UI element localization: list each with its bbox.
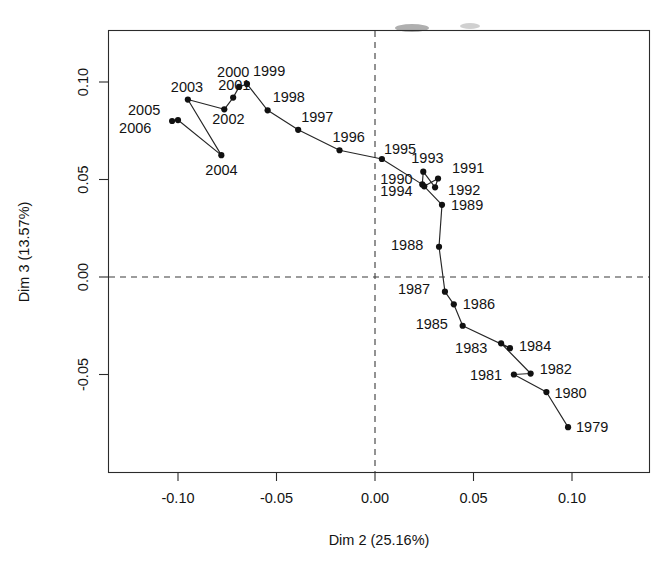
data-label-2006: 2006 [119, 120, 151, 136]
data-point-1989 [439, 202, 445, 208]
data-label-1980: 1980 [554, 385, 586, 401]
data-label-1991: 1991 [452, 160, 484, 176]
data-label-1982: 1982 [540, 361, 572, 377]
x-tick-label-0.05: 0.05 [459, 490, 487, 506]
data-point-2004 [218, 152, 224, 158]
data-label-1986: 1986 [463, 296, 495, 312]
data-label-1995: 1995 [384, 141, 416, 157]
data-label-1984: 1984 [519, 338, 551, 354]
data-point-1992 [432, 184, 438, 190]
data-point-1979 [565, 424, 571, 430]
data-point-1986 [451, 301, 457, 307]
x-tick-label--0.10: -0.10 [161, 490, 194, 506]
data-point-1994 [419, 181, 425, 187]
y-tick-label-0.00: 0.00 [75, 263, 91, 291]
data-label-1988: 1988 [391, 237, 423, 253]
x-tick-label-0.10: 0.10 [558, 490, 586, 506]
data-point-2003 [185, 96, 191, 102]
data-point-1988 [436, 244, 442, 250]
data-point-1980 [543, 389, 549, 395]
data-label-1994: 1994 [380, 183, 412, 199]
data-point-1981 [511, 371, 517, 377]
y-axis-title: Dim 3 (13.57%) [16, 202, 32, 303]
data-point-2001 [230, 95, 236, 101]
data-point-1983 [498, 340, 504, 346]
data-point-1997 [295, 127, 301, 133]
data-point-1996 [336, 147, 342, 153]
y-tick-label-0.05: 0.05 [75, 165, 91, 193]
data-point-2006 [169, 118, 175, 124]
data-point-1982 [528, 370, 534, 376]
data-label-2002: 2002 [212, 111, 244, 127]
data-label-2001: 2001 [218, 77, 250, 93]
data-point-2005 [175, 117, 181, 123]
data-label-1979: 1979 [576, 419, 608, 435]
data-point-1984 [507, 345, 513, 351]
plot-canvas: -0.10-0.050.000.050.10 -0.050.000.050.10… [0, 0, 657, 588]
data-label-1989: 1989 [451, 197, 483, 213]
data-label-2004: 2004 [205, 162, 237, 178]
y-tick-label-0.10: 0.10 [75, 68, 91, 96]
data-label-1992: 1992 [448, 182, 480, 198]
x-tick-label-0.00: 0.00 [361, 490, 389, 506]
data-label-1987: 1987 [398, 281, 430, 297]
scatter-plot-figure: -0.10-0.050.000.050.10 -0.050.000.050.10… [0, 0, 657, 588]
data-label-2005: 2005 [128, 102, 160, 118]
data-label-1996: 1996 [333, 129, 365, 145]
data-point-1985 [460, 323, 466, 329]
x-tick-label--0.05: -0.05 [260, 490, 293, 506]
data-label-1983: 1983 [455, 340, 487, 356]
data-label-1998: 1998 [273, 89, 305, 105]
data-label-1985: 1985 [416, 316, 448, 332]
data-point-1998 [265, 107, 271, 113]
data-point-1987 [442, 289, 448, 295]
x-axis-title: Dim 2 (25.16%) [329, 532, 430, 548]
data-label-1997: 1997 [301, 109, 333, 125]
data-point-1991 [435, 175, 441, 181]
y-tick-label--0.05: -0.05 [75, 358, 91, 391]
data-label-2003: 2003 [171, 79, 203, 95]
data-label-1981: 1981 [470, 367, 502, 383]
data-point-1993 [420, 169, 426, 175]
data-label-1999: 1999 [253, 63, 285, 79]
